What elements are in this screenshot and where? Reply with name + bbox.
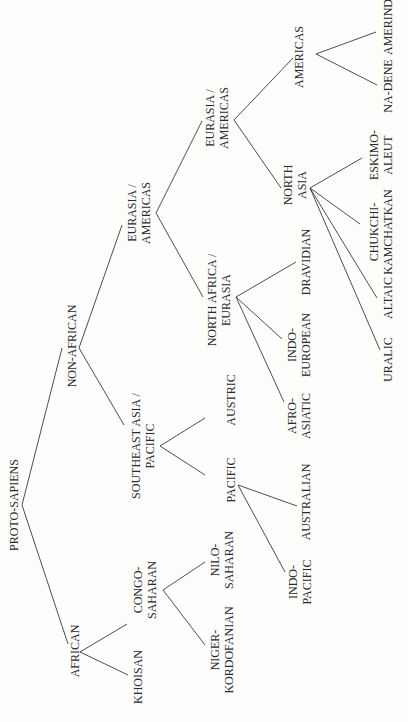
- svg-text:INDO-: INDO-: [285, 328, 299, 362]
- edge-se-pacific: [160, 446, 205, 475]
- svg-text:AUSTRALIAN: AUSTRALIAN: [299, 463, 313, 540]
- node-north-asia: NORTH ASIA: [281, 164, 309, 205]
- node-eskimo-aleut: ESKIMO- ALEUT: [367, 130, 395, 180]
- svg-text:ASIATIC: ASIATIC: [299, 393, 313, 439]
- svg-text:AFRICAN: AFRICAN: [68, 624, 82, 677]
- node-dravidian: DRAVIDIAN: [299, 228, 313, 295]
- svg-text:AUSTRIC: AUSTRIC: [224, 374, 238, 425]
- edge-eurasia2-americas: [234, 58, 293, 120]
- svg-text:DRAVIDIAN: DRAVIDIAN: [299, 228, 313, 295]
- svg-text:NON-AFRICAN: NON-AFRICAN: [65, 304, 79, 387]
- svg-text:EURASIA /: EURASIA /: [203, 89, 217, 147]
- edge-eurasia2-northasia: [234, 120, 281, 188]
- svg-text:AMERICAS: AMERICAS: [139, 182, 153, 244]
- edge-pacific-indopacific: [238, 485, 285, 572]
- edge-americas-amerind: [316, 32, 376, 54]
- svg-text:EURASIA /: EURASIA /: [125, 184, 139, 242]
- node-north-africa-eurasia: NORTH AFRICA / EURASIA: [205, 253, 233, 346]
- node-uralic: URALIC: [381, 337, 395, 382]
- node-indo-pacific: INDO- PACIFIC: [286, 560, 314, 605]
- node-afro-asiatic: AFRO- ASIATIC: [285, 393, 313, 439]
- edge-se-austric: [160, 418, 205, 446]
- language-family-tree-diagram: PROTO-SAPIENS AFRICAN KHOISAN CONGO- SAH…: [0, 0, 408, 722]
- svg-text:PACIFIC: PACIFIC: [300, 560, 314, 605]
- svg-text:PROTO-SAPIENS: PROTO-SAPIENS: [7, 459, 21, 551]
- edge-northafrica-dravidian: [236, 262, 296, 297]
- svg-text:SAHARAN: SAHARAN: [222, 531, 236, 589]
- node-eurasia-americas-2: EURASIA / AMERICAS: [203, 87, 231, 149]
- edge-congo-niger: [163, 590, 205, 645]
- node-amerind: AMERIND: [381, 0, 395, 55]
- svg-text:AMERICAS: AMERICAS: [292, 26, 306, 88]
- svg-text:AMERIND: AMERIND: [381, 0, 395, 55]
- svg-text:INDO-: INDO-: [286, 565, 300, 599]
- node-nilo-saharan: NILO- SAHARAN: [208, 531, 236, 589]
- node-non-african: NON-AFRICAN: [65, 304, 79, 387]
- node-african: AFRICAN: [68, 624, 82, 677]
- edge-root-nonafrican: [22, 348, 62, 505]
- node-austric: AUSTRIC: [224, 374, 238, 425]
- svg-text:EUROPEAN: EUROPEAN: [299, 313, 313, 377]
- svg-text:AFRO-: AFRO-: [285, 398, 299, 434]
- node-indo-european: INDO- EUROPEAN: [285, 313, 313, 377]
- edge-eurasia1-eurasia2: [156, 121, 202, 213]
- node-se-asia-pacific: SOUTHEAST ASIA / PACIFIC: [129, 392, 157, 498]
- tree-labels: PROTO-SAPIENS AFRICAN KHOISAN CONGO- SAH…: [7, 0, 395, 704]
- edge-nonafrican-eurasia1: [79, 225, 122, 348]
- svg-text:KORDOFANIAN: KORDOFANIAN: [222, 606, 236, 693]
- svg-text:SAHARAN: SAHARAN: [145, 561, 159, 619]
- svg-text:NA-DENE: NA-DENE: [381, 59, 395, 112]
- node-niger-kordofanian: NIGER- KORDOFANIAN: [208, 606, 236, 693]
- edge-eurasia1-northafrica: [156, 213, 203, 297]
- edge-americas-nadene: [316, 54, 377, 85]
- edge-nonafrican-se: [79, 348, 124, 425]
- node-pacific: PACIFIC: [224, 458, 238, 503]
- node-altaic: ALTAIC: [381, 277, 395, 319]
- edge-northasia-eskimo: [310, 158, 362, 188]
- node-australian: AUSTRALIAN: [299, 463, 313, 540]
- node-eurasia-americas-1: EURASIA / AMERICAS: [125, 182, 153, 244]
- node-khoisan: KHOISAN: [131, 650, 145, 704]
- svg-text:NORTH: NORTH: [281, 164, 295, 205]
- svg-text:SOUTHEAST ASIA /: SOUTHEAST ASIA /: [129, 392, 143, 498]
- edge-african-khoisan: [80, 652, 128, 675]
- svg-text:KHOISAN: KHOISAN: [131, 650, 145, 704]
- svg-text:NIGER-: NIGER-: [208, 630, 222, 671]
- svg-text:CONGO-: CONGO-: [131, 567, 145, 614]
- node-americas: AMERICAS: [292, 26, 306, 88]
- svg-text:ASIA: ASIA: [295, 171, 309, 199]
- svg-text:PACIFIC: PACIFIC: [224, 458, 238, 503]
- node-congo-saharan: CONGO- SAHARAN: [131, 561, 159, 619]
- edge-pacific-australian: [238, 485, 297, 506]
- svg-text:KAMCHATKAN: KAMCHATKAN: [381, 189, 395, 275]
- svg-text:CHUKCHI-: CHUKCHI-: [367, 203, 381, 262]
- node-na-dene: NA-DENE: [381, 59, 395, 112]
- edge-northafrica-indoeuropean: [236, 297, 282, 339]
- edge-congo-nilo: [163, 562, 205, 590]
- svg-text:ALEUT: ALEUT: [381, 135, 395, 175]
- svg-text:NILO-: NILO-: [208, 544, 222, 577]
- svg-text:EURASIA: EURASIA: [219, 274, 233, 326]
- svg-text:URALIC: URALIC: [381, 337, 395, 382]
- edge-northafrica-afro: [236, 297, 284, 402]
- tree-svg: PROTO-SAPIENS AFRICAN KHOISAN CONGO- SAH…: [0, 0, 408, 722]
- svg-text:ESKIMO-: ESKIMO-: [367, 130, 381, 180]
- edge-root-african: [22, 505, 68, 644]
- svg-text:AMERICAS: AMERICAS: [217, 87, 231, 149]
- svg-text:ALTAIC: ALTAIC: [381, 277, 395, 319]
- svg-text:PACIFIC: PACIFIC: [143, 424, 157, 469]
- svg-text:NORTH AFRICA /: NORTH AFRICA /: [205, 253, 219, 346]
- node-chukchi-kamchatkan: CHUKCHI- KAMCHATKAN: [367, 189, 395, 275]
- node-root: PROTO-SAPIENS: [7, 459, 21, 551]
- edge-african-congo: [80, 624, 127, 652]
